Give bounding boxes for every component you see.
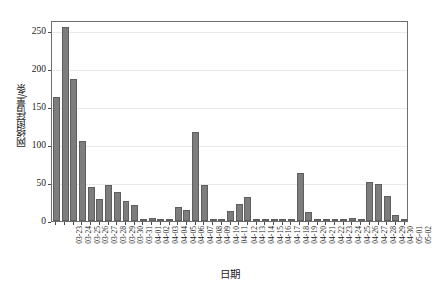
x-tick-mark xyxy=(247,222,248,225)
bar xyxy=(53,97,60,221)
bar xyxy=(218,219,225,221)
x-tick-label: 04-26 xyxy=(372,226,380,244)
x-tick-label: 04-15 xyxy=(276,226,284,244)
x-axis-title: 日期 xyxy=(51,268,408,280)
x-tick-label: 03-27 xyxy=(111,226,119,244)
x-tick-mark xyxy=(317,222,318,225)
x-tick-label: 03-31 xyxy=(146,226,154,244)
x-tick-mark xyxy=(282,222,283,225)
x-tick-label: 03-29 xyxy=(128,226,136,244)
bar xyxy=(140,219,147,221)
bar xyxy=(114,192,121,221)
x-tick-mark xyxy=(169,222,170,225)
x-tick-mark xyxy=(212,222,213,225)
x-tick-label: 04-28 xyxy=(390,226,398,244)
bar xyxy=(340,219,347,221)
bar xyxy=(131,205,138,221)
x-tick-mark xyxy=(177,222,178,225)
x-tick-label: 03-26 xyxy=(102,226,110,244)
x-tick-mark xyxy=(325,222,326,225)
bar xyxy=(70,79,77,221)
x-tick-mark xyxy=(73,222,74,225)
y-tick-label: 0 xyxy=(20,217,46,227)
x-tick-label: 04-25 xyxy=(363,226,371,244)
x-tick-mark xyxy=(230,222,231,225)
x-tick-label: 04-10 xyxy=(233,226,241,244)
x-tick-mark xyxy=(343,222,344,225)
x-tick-label: 04-19 xyxy=(311,226,319,244)
x-tick-label: 04-12 xyxy=(250,226,258,244)
bar xyxy=(375,184,382,221)
x-tick-mark xyxy=(203,222,204,225)
x-tick-mark xyxy=(99,222,100,225)
x-tick-label: 04-16 xyxy=(285,226,293,244)
x-tick-mark xyxy=(238,222,239,225)
x-tick-label: 04-11 xyxy=(241,226,249,243)
bar xyxy=(262,219,269,221)
x-tick-mark xyxy=(125,222,126,225)
bar xyxy=(314,219,321,221)
bar-series xyxy=(52,22,407,221)
chart-figure: 网络舆情量/条 050100150200250 03-2303-2403-250… xyxy=(0,0,441,290)
x-tick-mark xyxy=(81,222,82,225)
x-tick-label: 04-24 xyxy=(355,226,363,244)
x-tick-label: 04-21 xyxy=(329,226,337,244)
bar xyxy=(384,196,391,221)
bar xyxy=(175,207,182,221)
x-tick-mark xyxy=(134,222,135,225)
x-tick-mark xyxy=(186,222,187,225)
x-tick-mark xyxy=(90,222,91,225)
x-tick-label: 03-24 xyxy=(85,226,93,244)
x-tick-label: 04-22 xyxy=(337,226,345,244)
y-tick-mark xyxy=(48,222,51,223)
y-axis-title: 网络舆情量/条 xyxy=(14,55,30,175)
x-tick-mark xyxy=(334,222,335,225)
bar xyxy=(62,27,69,221)
x-tick-label: 04-18 xyxy=(302,226,310,244)
x-tick-mark xyxy=(160,222,161,225)
x-tick-mark xyxy=(221,222,222,225)
bar xyxy=(157,219,164,221)
x-tick-mark xyxy=(386,222,387,225)
bar xyxy=(149,218,156,221)
bar xyxy=(227,211,234,221)
bar xyxy=(236,204,243,221)
x-tick-mark xyxy=(142,222,143,225)
x-tick-label: 04-30 xyxy=(407,226,415,244)
x-tick-mark xyxy=(273,222,274,225)
bar xyxy=(192,132,199,222)
bar xyxy=(332,219,339,221)
x-tick-mark xyxy=(195,222,196,225)
x-tick-label: 04-23 xyxy=(346,226,354,244)
x-tick-label: 03-28 xyxy=(120,226,128,244)
bar xyxy=(392,215,399,221)
bar xyxy=(183,210,190,221)
x-tick-mark xyxy=(404,222,405,225)
x-tick-mark xyxy=(55,222,56,225)
x-tick-label: 04-05 xyxy=(189,226,197,244)
y-tick-label: 250 xyxy=(20,28,46,38)
bar xyxy=(305,212,312,221)
x-tick-label: 04-03 xyxy=(172,226,180,244)
bar xyxy=(244,197,251,221)
bar xyxy=(79,141,86,221)
x-tick-mark xyxy=(299,222,300,225)
y-tick-label: 50 xyxy=(20,179,46,189)
bar xyxy=(366,182,373,221)
x-tick-mark xyxy=(395,222,396,225)
x-tick-label: 05-01 xyxy=(416,226,424,244)
x-tick-label: 04-13 xyxy=(259,226,267,244)
bar xyxy=(210,219,217,221)
x-tick-mark xyxy=(116,222,117,225)
bar xyxy=(88,187,95,221)
bar xyxy=(96,199,103,221)
bar xyxy=(123,201,130,221)
x-tick-label: 04-27 xyxy=(381,226,389,244)
x-tick-label: 04-07 xyxy=(207,226,215,244)
bar xyxy=(288,219,295,221)
bar xyxy=(279,219,286,221)
x-tick-label: 03-25 xyxy=(93,226,101,244)
x-tick-label: 04-17 xyxy=(294,226,302,244)
x-tick-label: 05-02 xyxy=(424,226,432,244)
x-tick-label: 04-20 xyxy=(320,226,328,244)
